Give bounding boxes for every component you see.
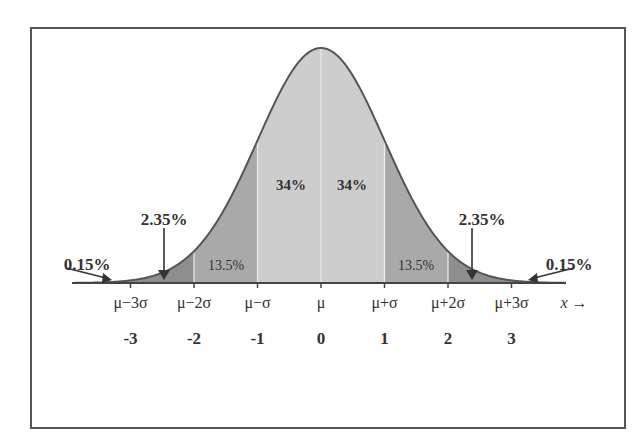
label-34-right: 34%	[337, 177, 367, 193]
region-4	[321, 48, 385, 283]
label-2-35-left: 2.35%	[141, 210, 188, 229]
sigma-tick-label: μ	[317, 294, 326, 312]
x-axis-arrow-label: x →	[559, 294, 587, 311]
z-tick-label: 3	[507, 329, 516, 348]
sigma-tick-label: μ−2σ	[177, 294, 212, 312]
arrow-2-35-left	[158, 228, 170, 280]
sigma-tick-label: μ+σ	[371, 294, 398, 312]
z-tick-label: 2	[444, 329, 453, 348]
label-13-5-left: 13.5%	[208, 258, 245, 273]
label-34-left: 34%	[276, 177, 306, 193]
sigma-tick-label: μ+2σ	[431, 294, 466, 312]
area-regions	[72, 48, 566, 283]
sigma-tick-label: μ+3σ	[494, 294, 529, 312]
z-tick-label: -1	[250, 329, 264, 348]
region-3	[258, 48, 322, 283]
z-tick-labels: -3-2-10123	[123, 329, 515, 348]
z-tick-label: 1	[380, 329, 389, 348]
sigma-tick-labels: μ−3σμ−2σμ−σμμ+σμ+2σμ+3σ	[113, 294, 529, 312]
sigma-tick-label: μ−3σ	[113, 294, 148, 312]
z-tick-label: -2	[187, 329, 201, 348]
label-0-15-right: 0.15%	[546, 255, 593, 274]
sigma-tick-label: μ−σ	[244, 294, 271, 312]
label-0-15-left: 0.15%	[64, 255, 111, 274]
label-13-5-right: 13.5%	[398, 258, 435, 273]
label-2-35-right: 2.35%	[459, 210, 506, 229]
arrow-2-35-right	[466, 228, 478, 280]
z-tick-label: -3	[123, 329, 137, 348]
normal-distribution-chart: 34% 34% 13.5% 13.5% 2.35% 2.35% 0.15% 0.…	[0, 0, 642, 437]
z-tick-label: 0	[317, 329, 326, 348]
